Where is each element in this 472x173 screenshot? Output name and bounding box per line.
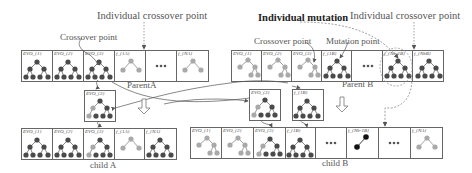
mutation-result-arrow <box>385 78 412 126</box>
child-a-trees <box>23 136 173 157</box>
mutation-arrow <box>300 22 398 58</box>
detached-evo3-a-tree <box>86 98 112 118</box>
insert-arrow-a <box>98 121 99 127</box>
parent-a-trees <box>23 58 203 79</box>
swap-curve-1 <box>112 82 250 102</box>
swap-curve-4 <box>292 86 300 88</box>
detached-f1b-tree <box>293 98 320 118</box>
diagram-overlay <box>0 0 472 173</box>
insert-arrow-b-f1b <box>300 120 307 127</box>
insert-arrow-b-evo <box>261 120 272 127</box>
extract-arrow-a <box>96 80 98 89</box>
down-arrow-b <box>336 97 348 112</box>
child-b-trees <box>196 134 437 157</box>
mutated-gene-tree <box>354 134 369 150</box>
detached-evo3-b-tree <box>251 97 277 117</box>
mutation-pointer <box>340 42 348 58</box>
